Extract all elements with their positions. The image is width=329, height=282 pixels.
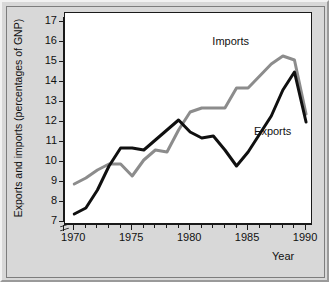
- x-axis-title: Year: [272, 250, 294, 262]
- series-label-imports: Imports: [212, 35, 249, 47]
- x-axis-line: [64, 224, 312, 225]
- x-tick-label: 1970: [53, 231, 93, 243]
- series-label-exports: Exports: [254, 125, 291, 137]
- x-tick-label: 1980: [169, 231, 209, 243]
- chart-svg: [65, 13, 313, 225]
- y-tick-label: 13: [24, 94, 57, 106]
- y-tick-label: 16: [24, 34, 57, 46]
- figure-window: Exports and imports (percentages of GNP)…: [0, 0, 329, 282]
- series-line-exports: [74, 72, 306, 214]
- x-tick-label: 1985: [227, 231, 267, 243]
- x-tick-label: 1975: [111, 231, 151, 243]
- y-tick-label: 12: [24, 114, 57, 126]
- plot-area: [64, 12, 312, 224]
- y-tick-label: 10: [24, 154, 57, 166]
- y-tick-label: 11: [24, 134, 57, 146]
- y-tick-label: 17: [24, 14, 57, 26]
- y-tick-label: 15: [24, 54, 57, 66]
- y-tick-label: 8: [24, 194, 57, 206]
- y-tick-label: 7: [24, 214, 57, 226]
- x-tick-label: 1990: [285, 231, 325, 243]
- y-axis-stub: [63, 225, 64, 231]
- y-tick-label: 14: [24, 74, 57, 86]
- y-axis-line: [63, 17, 64, 222]
- y-tick-label: 9: [24, 174, 57, 186]
